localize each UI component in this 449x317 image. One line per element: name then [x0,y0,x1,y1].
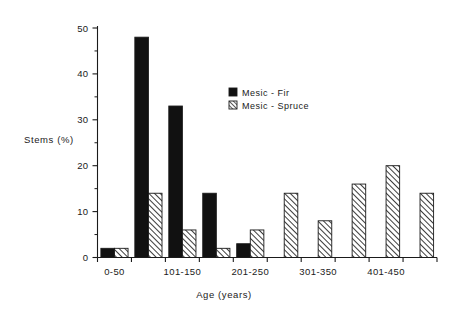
x-axis: 0-50101-150201-250301-350401-450 [98,258,438,277]
x-axis-tick-label: 401-450 [367,266,405,277]
bar-mesic-fir-101-150 [169,106,183,257]
bar-mesic-spruce-301-350 [318,221,332,258]
y-axis-title: Stems (%) [24,134,74,145]
y-axis-tick-label: 30 [77,114,88,125]
bar-mesic-spruce-201-250 [250,230,264,258]
x-axis-tick-label: 101-150 [164,266,202,277]
x-axis-title: Age (years) [196,289,252,300]
y-axis-tick-label: 40 [77,68,88,79]
bar-mesic-fir-51-100 [135,37,149,257]
legend-swatch-fir [229,88,237,96]
bar-mesic-spruce-151-200 [216,248,230,257]
bar-mesic-spruce-401-450 [386,166,400,258]
chart-canvas: 01020304050 0-50101-150201-250301-350401… [0,0,449,317]
bar-mesic-spruce-51-100 [148,193,162,257]
bar-mesic-spruce-0-50 [114,248,128,257]
bar-mesic-fir-201-250 [237,244,251,258]
bar-mesic-spruce-451-500 [420,193,434,257]
x-axis-tick-label: 201-250 [231,266,269,277]
y-axis: 01020304050 [77,23,97,264]
legend-label: Mesic - Spruce [242,101,309,111]
y-axis-tick-label: 20 [77,160,88,171]
bar-mesic-spruce-351-400 [352,184,366,257]
legend-label: Mesic - Fir [242,88,290,98]
y-axis-tick-label: 0 [83,252,89,263]
y-axis-tick-label: 10 [77,206,88,217]
bar-mesic-fir-151-200 [203,193,217,257]
plot-area [101,37,434,257]
bar-mesic-spruce-251-300 [284,193,298,257]
legend-swatch-spruce [229,101,237,109]
chart-legend: Mesic - FirMesic - Spruce [229,88,309,111]
bar-mesic-spruce-101-150 [182,230,196,258]
x-axis-tick-label: 301-350 [299,266,337,277]
x-axis-tick-label: 0-50 [104,266,125,277]
bar-chart-figure: 01020304050 0-50101-150201-250301-350401… [0,0,449,317]
bar-mesic-fir-0-50 [101,248,115,257]
y-axis-tick-label: 50 [77,23,88,34]
